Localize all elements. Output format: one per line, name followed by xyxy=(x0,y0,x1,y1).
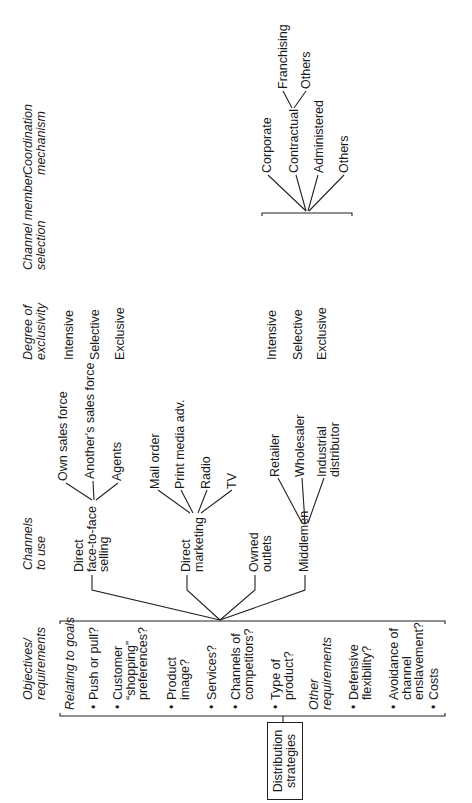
other-item: Costs xyxy=(428,668,441,700)
header-channels: Channelsto use xyxy=(22,517,47,570)
subchannel-industrial-distributor: Industrialdistributor xyxy=(316,422,341,477)
subchannel-own-sales-force: Own sales force xyxy=(57,391,70,481)
goal-item: Services? xyxy=(206,645,219,700)
exclusivity-exclusive: Exclusive xyxy=(316,307,329,360)
other-item: Avoidance ofchannelenslavement? xyxy=(388,622,426,700)
coordination-contractual: Contractual xyxy=(288,109,301,173)
channel-middlemen: Middlemen xyxy=(298,511,311,572)
coordination-administered: Administered xyxy=(313,100,326,173)
channel-direct-marketing: Directmarketing xyxy=(180,517,205,572)
distribution-strategies-box: Distributionstrategies xyxy=(267,722,303,800)
goal-item: Customer“shopping”preferences? xyxy=(112,627,150,700)
goal-item: Channels ofcompetitors? xyxy=(230,628,255,700)
coordination-corporate: Corporate xyxy=(261,117,274,173)
channel-face-to-face: Directface-to-faceselling xyxy=(73,506,111,572)
header-member-selection: Channel memberselection xyxy=(22,174,47,270)
exclusivity-selective: Selective xyxy=(89,309,102,360)
contractual-others: Others xyxy=(300,51,313,89)
other-requirements-heading: Otherrequirements xyxy=(308,637,333,710)
exclusivity-intensive: Intensive xyxy=(266,310,279,360)
subchannel-anothers-sales-force: Another's sales force xyxy=(84,363,97,479)
channel-owned-outlets: Ownedoutlets xyxy=(248,532,273,572)
other-item: Defensiveflexibility? xyxy=(348,644,373,700)
header-coordination: Coordinationmechanism xyxy=(22,104,47,175)
coordination-others: Others xyxy=(338,135,351,173)
subchannel-print-media: Print media adv. xyxy=(174,400,187,489)
exclusivity-exclusive: Exclusive xyxy=(114,307,127,360)
header-exclusivity: Degree ofexclusivity xyxy=(22,303,47,360)
subchannel-tv: TV xyxy=(226,473,239,489)
goal-item: Push or pull? xyxy=(88,627,101,700)
header-objectives: Objectives/requirements xyxy=(22,627,47,700)
goal-item: Type ofproduct? xyxy=(270,651,295,700)
goals-heading: Relating to goals xyxy=(64,617,77,710)
subchannel-radio: Radio xyxy=(200,456,213,489)
goal-item: Productimage? xyxy=(166,657,191,700)
contractual-franchising: Franchising xyxy=(277,24,290,89)
exclusivity-intensive: Intensive xyxy=(63,310,76,360)
subchannel-mail-order: Mail order xyxy=(149,433,162,489)
subchannel-agents: Agents xyxy=(111,442,124,481)
subchannel-wholesaler: Wholesaler xyxy=(294,414,307,477)
exclusivity-selective: Selective xyxy=(292,309,305,360)
subchannel-retailer: Retailer xyxy=(269,434,282,477)
distribution-strategies-diagram: Objectives/requirements Channelsto use D… xyxy=(0,0,472,803)
